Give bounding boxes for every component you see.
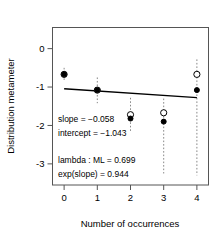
annotation-intercept: intercept = −1.043 [58, 128, 127, 138]
scatter-plot: 0-1-2-3 01234 slope = −0.058 intercept =… [0, 0, 221, 235]
expected-point [194, 71, 200, 77]
chart-container: 0-1-2-3 01234 slope = −0.058 intercept =… [0, 0, 221, 235]
x-tick-label: 4 [194, 192, 199, 203]
x-tick-label: 0 [61, 192, 66, 203]
y-tick-label: -1 [36, 81, 44, 92]
expected-point [161, 110, 167, 116]
annotation-slope: slope = −0.058 [58, 114, 115, 124]
observed-point [194, 88, 199, 93]
y-axis-title: Distribution metameter [5, 58, 16, 154]
observed-point [62, 72, 67, 77]
annotation-lambda: lambda : ML = 0.699 [58, 155, 136, 165]
x-tick-label: 1 [95, 192, 100, 203]
observed-point [161, 119, 166, 124]
y-tick-label: -3 [36, 158, 44, 169]
y-tick-label: 0 [39, 43, 44, 54]
y-tick-label: -2 [36, 120, 44, 131]
annotation-exp-slope: exp(slope) = 0.944 [58, 169, 129, 179]
x-tick-label: 3 [161, 192, 166, 203]
x-axis-title: Number of occurrences [81, 218, 180, 229]
observed-point [95, 88, 100, 93]
observed-point [128, 116, 133, 121]
x-tick-label: 2 [128, 192, 133, 203]
